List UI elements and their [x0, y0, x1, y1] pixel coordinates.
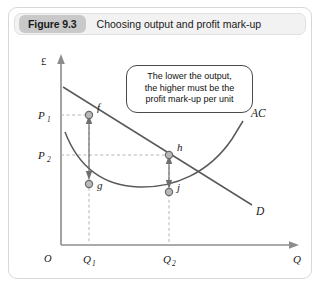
demand-curve-label: D	[255, 205, 265, 217]
point-label-g: g	[97, 179, 103, 191]
chart-plot-area: D AC f g	[14, 39, 306, 273]
point-label-j: j	[175, 181, 180, 193]
figure-card: Figure 9.3 Choosing output and profit ma…	[8, 7, 312, 279]
svg-text:1: 1	[47, 115, 51, 124]
x-axis-label: Q	[293, 253, 301, 265]
x-tick-label-q2: Q 2	[163, 253, 176, 268]
callout-line-1: The lower the output,	[131, 71, 248, 83]
point-marker-h	[165, 151, 172, 158]
figure-header: Figure 9.3 Choosing output and profit ma…	[14, 13, 306, 35]
svg-text:1: 1	[92, 259, 96, 268]
y-axis	[57, 54, 65, 245]
point-marker-g	[85, 180, 92, 187]
callout-box: The lower the output, the higher must be…	[126, 65, 253, 113]
svg-text:P: P	[37, 149, 45, 161]
x-tick-label-q1: Q 1	[83, 253, 96, 268]
y-axis-currency-label: £	[41, 56, 46, 67]
callout-line-2: the higher must be the	[131, 83, 248, 95]
origin-label: O	[44, 253, 52, 264]
average-cost-curve	[65, 121, 243, 187]
x-axis	[61, 241, 299, 249]
y-tick-label-p2: P 2	[37, 149, 51, 164]
point-marker-j	[165, 188, 172, 195]
svg-text:2: 2	[47, 155, 51, 164]
svg-text:Q: Q	[83, 253, 91, 265]
point-marker-f	[85, 111, 92, 118]
callout-line-3: profit mark-up per unit	[131, 94, 248, 106]
svg-text:P: P	[37, 109, 45, 121]
y-tick-label-p1: P 1	[37, 109, 51, 124]
point-label-h: h	[177, 141, 183, 153]
figure-number-badge: Figure 9.3	[19, 15, 86, 33]
average-cost-curve-label: AC	[250, 107, 266, 119]
svg-text:Q: Q	[163, 253, 171, 265]
svg-text:2: 2	[172, 259, 176, 268]
figure-caption: Choosing output and profit mark-up	[97, 18, 262, 30]
guide-lines	[61, 115, 169, 245]
